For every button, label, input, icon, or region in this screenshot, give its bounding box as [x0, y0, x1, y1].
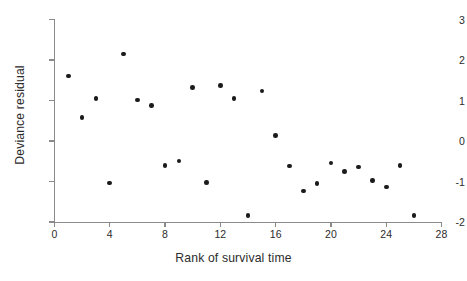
data-point — [121, 52, 126, 57]
x-tick-mark — [54, 222, 55, 227]
data-point — [342, 169, 347, 174]
data-point — [370, 178, 375, 183]
y-axis-title: Deviance residual — [13, 35, 27, 195]
data-point — [273, 133, 278, 138]
y-axis-line — [54, 19, 55, 223]
x-tick-label: 0 — [40, 229, 70, 240]
x-axis-line — [54, 222, 442, 223]
y-tick-mark — [49, 59, 54, 60]
data-point — [177, 159, 182, 164]
plot-area: -2-10123 0481216202428 Rank of survival … — [0, 0, 467, 281]
x-tick-mark — [109, 222, 110, 227]
x-tick-mark — [220, 222, 221, 227]
y-tick-label: 0 — [421, 136, 467, 147]
scatter-plot-figure: -2-10123 0481216202428 Rank of survival … — [0, 0, 467, 281]
data-point — [163, 163, 168, 168]
x-tick-label: 16 — [261, 229, 291, 240]
data-point — [301, 189, 306, 194]
x-tick-label: 4 — [95, 229, 125, 240]
data-point — [356, 165, 361, 170]
y-tick-mark — [49, 100, 54, 101]
x-tick-label: 12 — [205, 229, 235, 240]
y-tick-label: 1 — [421, 95, 467, 106]
x-tick-mark — [386, 222, 387, 227]
y-tick-mark — [49, 181, 54, 182]
data-point — [204, 180, 209, 185]
data-point — [218, 83, 223, 88]
x-tick-label: 24 — [371, 229, 401, 240]
y-tick-label: 2 — [421, 55, 467, 66]
data-point — [66, 74, 71, 79]
x-tick-mark — [330, 222, 331, 227]
data-point — [94, 96, 99, 101]
y-tick-label: 3 — [421, 14, 467, 25]
data-point — [287, 164, 292, 169]
data-point — [149, 103, 154, 108]
data-point — [329, 161, 334, 166]
y-tick-mark — [49, 19, 54, 20]
data-point — [246, 213, 251, 218]
data-point — [232, 96, 237, 101]
data-point — [80, 115, 85, 120]
data-point — [190, 85, 195, 90]
y-tick-mark — [49, 140, 54, 141]
data-point — [107, 181, 112, 186]
x-tick-mark — [441, 222, 442, 227]
x-tick-label: 28 — [427, 229, 457, 240]
data-point — [384, 185, 389, 190]
x-tick-mark — [164, 222, 165, 227]
data-point — [260, 89, 265, 94]
y-tick-label: -1 — [421, 176, 467, 187]
data-point — [398, 163, 403, 168]
x-tick-label: 20 — [316, 229, 346, 240]
data-point — [135, 98, 140, 103]
x-tick-mark — [275, 222, 276, 227]
x-axis-title: Rank of survival time — [0, 251, 467, 265]
x-tick-label: 8 — [150, 229, 180, 240]
data-point — [315, 181, 320, 186]
y-tick-label: -2 — [421, 217, 467, 228]
data-point — [412, 213, 417, 218]
